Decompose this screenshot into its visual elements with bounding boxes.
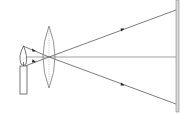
candle — [20, 46, 27, 94]
arrow-icon — [121, 83, 125, 86]
ray-from-flame-top — [23, 46, 176, 104]
optics-diagram — [0, 0, 190, 114]
arrow-icon — [32, 59, 36, 62]
candle-body — [20, 66, 27, 94]
screen — [176, 0, 179, 112]
ray-from-flame-base — [25, 10, 176, 66]
arrow-icon — [121, 28, 125, 31]
